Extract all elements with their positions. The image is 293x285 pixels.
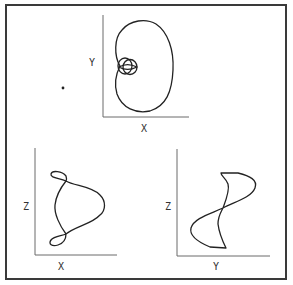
panel-xy: Y X <box>89 15 189 134</box>
z-axis-label-yz: Z <box>165 201 171 212</box>
orbit-curve-xz <box>50 172 105 246</box>
axes-xy <box>103 15 189 117</box>
panel-yz: Z Y <box>165 149 270 272</box>
marker-dot <box>62 87 65 90</box>
y-axis-label-yz: Y <box>213 261 219 272</box>
orbit-curve-xy <box>116 21 174 112</box>
z-axis-label-xz: Z <box>23 201 29 212</box>
figure-canvas: Y X Z X Z Y <box>0 0 293 285</box>
inner-loop-3 <box>119 65 137 70</box>
axes-yz <box>177 149 270 256</box>
axes-xz <box>35 148 117 255</box>
x-axis-label-xz: X <box>58 261 64 272</box>
panel-xz: Z X <box>23 148 117 272</box>
orbit-curve-yz <box>191 173 256 248</box>
figure-frame <box>6 5 286 279</box>
x-axis-label-xy: X <box>141 123 147 134</box>
y-axis-label-xy: Y <box>89 57 95 68</box>
